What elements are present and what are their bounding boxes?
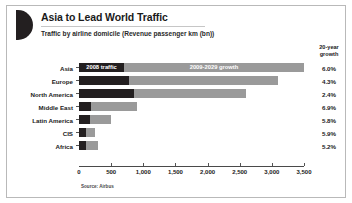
bar-segment-growth-2009-2029: 2009-2029 growth [124, 63, 304, 72]
bar-segment-growth-2009-2029 [86, 141, 98, 150]
source-note: Source: Airbus [81, 184, 114, 189]
x-axis-tick [111, 163, 112, 166]
bar-segment-traffic-2008 [79, 76, 129, 85]
legend-label-traffic-2008: 2008 traffic [79, 63, 124, 72]
bar-segment-traffic-2008 [79, 115, 90, 124]
category-label: Asia [15, 65, 73, 72]
category-label: Africa [15, 143, 73, 150]
category-label: CIS [15, 130, 73, 137]
x-axis-tick [208, 163, 209, 166]
growth-value: 6.9% [307, 104, 351, 111]
bar-segment-growth-2009-2029 [134, 89, 247, 98]
chart-card: Asia to Lead World Traffic Traffic by ai… [6, 5, 346, 198]
bar-chart-plot: Asia2008 traffic2009-2029 growth6.0%Euro… [7, 6, 347, 199]
bar-segment-growth-2009-2029 [90, 115, 111, 124]
growth-value: 2.4% [307, 91, 351, 98]
table-row [79, 76, 278, 85]
x-axis-line [79, 166, 304, 167]
table-row [79, 89, 246, 98]
x-axis-tick-label: 0 [64, 169, 94, 175]
table-row: 2008 traffic2009-2029 growth [79, 63, 304, 72]
x-axis-tick [304, 163, 305, 166]
x-axis-tick-label: 1,500 [160, 169, 190, 175]
bar-segment-traffic-2008 [79, 128, 86, 137]
table-row [79, 128, 95, 137]
growth-value: 4.3% [307, 78, 351, 85]
bar-segment-traffic-2008 [79, 102, 91, 111]
category-label: Latin America [15, 117, 73, 124]
bar-segment-growth-2009-2029 [91, 102, 137, 111]
x-axis-tick-label: 2,000 [193, 169, 223, 175]
table-row [79, 141, 98, 150]
growth-value: 5.8% [307, 117, 351, 124]
x-axis-tick [240, 163, 241, 166]
bar-segment-traffic-2008 [79, 141, 86, 150]
x-axis-tick-label: 500 [96, 169, 126, 175]
growth-value: 5.2% [307, 143, 351, 150]
x-axis-tick [175, 163, 176, 166]
growth-value: 6.0% [307, 65, 351, 72]
x-axis-tick-label: 1,000 [128, 169, 158, 175]
x-axis-tick [272, 163, 273, 166]
bar-segment-traffic-2008: 2008 traffic [79, 63, 124, 72]
table-row [79, 102, 137, 111]
legend-label-growth-2009-2029: 2009-2029 growth [124, 63, 304, 72]
x-axis-tick-label: 3,000 [257, 169, 287, 175]
category-label: Middle East [15, 104, 73, 111]
x-axis-tick-label: 2,500 [225, 169, 255, 175]
x-axis-tick-label: 3,500 [289, 169, 319, 175]
category-label: North America [15, 91, 73, 98]
table-row [79, 115, 111, 124]
bar-segment-growth-2009-2029 [129, 76, 278, 85]
growth-value: 5.9% [307, 130, 351, 137]
x-axis-tick [143, 163, 144, 166]
bar-segment-growth-2009-2029 [86, 128, 95, 137]
category-label: Europe [15, 78, 73, 85]
bar-segment-traffic-2008 [79, 89, 134, 98]
